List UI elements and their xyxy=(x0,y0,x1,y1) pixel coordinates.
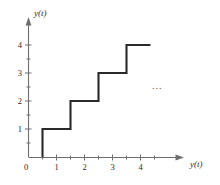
continuation-ellipsis: ... xyxy=(152,80,163,91)
y-tick-label-3: 3 xyxy=(18,68,22,78)
y-tick-label-1: 1 xyxy=(18,124,22,134)
x-tick-label-2: 2 xyxy=(82,162,86,172)
x-tick-label-3: 3 xyxy=(110,162,114,172)
x-tick-label-0: 0 xyxy=(24,162,28,172)
x-tick-label-1: 1 xyxy=(54,162,58,172)
y-axis-label: y(t) xyxy=(33,8,47,18)
x-axis-label: y(t) xyxy=(189,159,203,169)
step-function-chart: 4 3 2 1 0 1 2 3 4 y(t) y(t) ... xyxy=(0,0,220,185)
chart-canvas: 4 3 2 1 0 1 2 3 4 y(t) y(t) ... xyxy=(0,0,220,185)
y-tick-label-2: 2 xyxy=(18,96,22,106)
